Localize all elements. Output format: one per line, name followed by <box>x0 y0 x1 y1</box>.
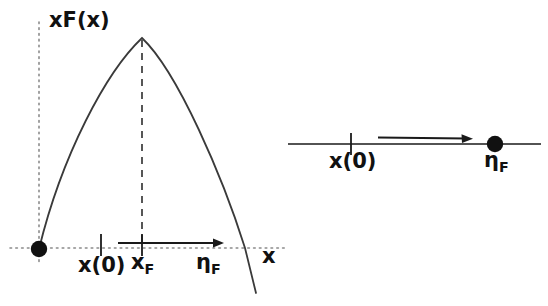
y-axis-label: xF(x) <box>49 10 110 31</box>
label-x-initial-left: x(0) <box>78 255 125 276</box>
flow-arrow-right <box>378 134 473 143</box>
label-eta-F-right-sub: F <box>499 159 509 175</box>
label-eta-F-left: ηF <box>196 252 221 276</box>
flow-arrow-left <box>118 239 224 248</box>
label-x-F: xF <box>131 252 154 276</box>
label-x-F-base: x <box>131 250 145 274</box>
x-axis-label: x <box>262 246 276 267</box>
label-eta-F-right: ηF <box>484 150 509 174</box>
label-x-F-sub: F <box>145 261 155 277</box>
label-eta-F-left-sub: F <box>211 261 221 277</box>
label-x-initial-right: x(0) <box>329 151 376 172</box>
label-eta-F-left-base: η <box>196 250 211 274</box>
label-eta-F-right-base: η <box>484 148 499 172</box>
origin-dot <box>31 241 47 257</box>
